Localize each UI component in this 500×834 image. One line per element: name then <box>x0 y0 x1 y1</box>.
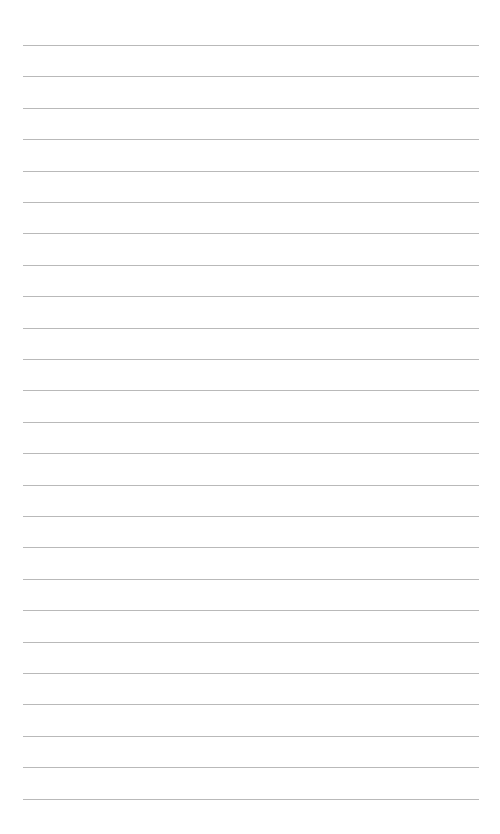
ruled-line <box>23 516 479 517</box>
ruled-line <box>23 296 479 297</box>
ruled-line <box>23 390 479 391</box>
ruled-line <box>23 45 479 46</box>
ruled-line <box>23 76 479 77</box>
ruled-line <box>23 359 479 360</box>
ruled-line <box>23 108 479 109</box>
ruled-line <box>23 265 479 266</box>
ruled-line <box>23 642 479 643</box>
ruled-line <box>23 579 479 580</box>
ruled-line <box>23 736 479 737</box>
ruled-line <box>23 171 479 172</box>
ruled-line <box>23 799 479 800</box>
ruled-line <box>23 485 479 486</box>
ruled-line <box>23 547 479 548</box>
ruled-line <box>23 704 479 705</box>
ruled-line <box>23 328 479 329</box>
ruled-line <box>23 139 479 140</box>
ruled-line <box>23 202 479 203</box>
ruled-line <box>23 233 479 234</box>
ruled-line <box>23 767 479 768</box>
ruled-line <box>23 422 479 423</box>
ruled-line <box>23 453 479 454</box>
lined-paper-page <box>0 0 500 834</box>
ruled-line <box>23 610 479 611</box>
ruled-line <box>23 673 479 674</box>
